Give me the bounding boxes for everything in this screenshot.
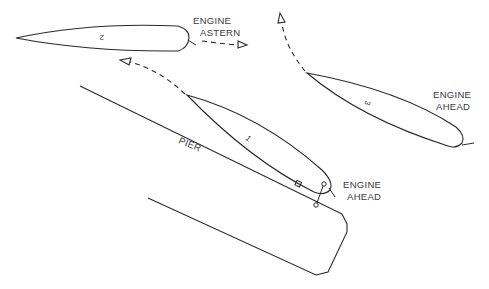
ship-1-bow-swing-arrow-path: [130, 62, 185, 94]
ship-1-rudder: [329, 188, 335, 197]
ship-1-hull: [187, 95, 331, 194]
ship-1-number: 1: [244, 134, 254, 144]
ship-3-engine-label-line2: AHEAD: [436, 101, 470, 112]
ship-3: 3 ENGINE AHEAD: [278, 13, 474, 147]
ship-2-number: 2: [99, 33, 104, 42]
ship-2-engine-label-line2: ASTERN: [200, 27, 240, 38]
ship-2-engine-label-line1: ENGINE: [193, 15, 231, 26]
ship-2-rudder: [188, 40, 196, 45]
ship-3-engine-label-line1: ENGINE: [433, 89, 471, 100]
ship-1-line-bollard-ship-icon: [322, 182, 326, 186]
pier-outline: [148, 198, 347, 275]
pier-label: PIER: [177, 135, 203, 154]
ship-maneuvering-diagram: 2 ENGINE ASTERN 1 ENGINE AHEAD PIER 3 EN…: [0, 0, 489, 289]
ship-2-astern-motion-arrow-path: [202, 41, 238, 45]
ship-1-engine-label-line1: ENGINE: [343, 179, 381, 190]
ship-3-bow-swing-arrow-path: [282, 24, 305, 71]
pier: [80, 86, 347, 275]
ship-2-astern-arrowhead-icon: [238, 41, 247, 48]
pier-upper-edge: [80, 86, 342, 214]
ship-3-bow-swing-arrowhead-icon: [278, 13, 285, 23]
ship-1-bow-swing-arrowhead-icon: [120, 58, 131, 65]
ship-3-rudder: [462, 143, 474, 145]
ship-2: 2 ENGINE ASTERN: [16, 15, 247, 51]
ship-1-engine-label-line2: AHEAD: [347, 191, 381, 202]
ship-1-line-bollard-pier-icon: [314, 203, 318, 207]
ship-3-number: 3: [362, 99, 372, 107]
ship-1-mooring-line: [317, 186, 323, 203]
